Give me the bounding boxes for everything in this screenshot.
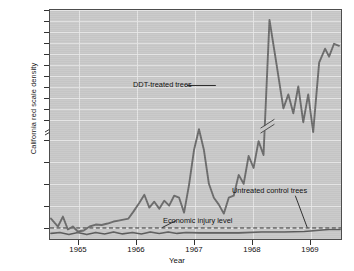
annotation-economic-injury-level: Economic injury level xyxy=(163,216,232,225)
x-tick-label: 1965 xyxy=(55,245,101,254)
chart-figure: 1,400 1,300 1,200 1,100 1,000 900 800 70… xyxy=(0,0,354,271)
plot-area xyxy=(49,9,342,240)
annotation-ddt-treated-trees: DDT-treated trees xyxy=(133,80,192,89)
annotation-untreated-control-trees: Untreated control trees xyxy=(232,186,307,195)
x-axis-title: Year xyxy=(0,256,354,265)
data-series-layer xyxy=(50,10,341,239)
x-tick-label: 1968 xyxy=(229,245,275,254)
y-axis-title: California red scale density xyxy=(29,24,38,194)
x-tick-label: 1969 xyxy=(287,245,333,254)
series-break-icon xyxy=(261,119,275,133)
untreated-control-trees-line xyxy=(51,229,340,234)
x-tick-label: 1967 xyxy=(171,245,217,254)
ddt-treated-trees-line xyxy=(51,20,339,232)
x-tick-label: 1966 xyxy=(113,245,159,254)
